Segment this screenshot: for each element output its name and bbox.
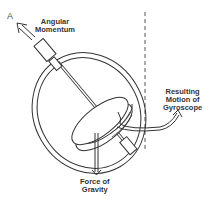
point-label-a: A	[7, 11, 13, 21]
force-of-gravity-label: Force of Gravity	[80, 178, 110, 194]
resulting-motion-label: Resulting Motion of Gyroscope	[163, 88, 202, 112]
angular-momentum-arrow	[17, 23, 35, 40]
angular-momentum-label: Angular Momentum	[35, 18, 75, 34]
